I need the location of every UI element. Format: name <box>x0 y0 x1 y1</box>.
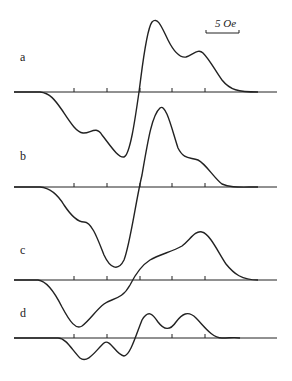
trace-d <box>14 314 240 360</box>
trace-label-a: a <box>20 50 25 65</box>
trace-a <box>14 20 258 157</box>
trace-label-b: b <box>20 149 26 164</box>
trace-label-d: d <box>20 306 26 321</box>
ticks-d <box>74 334 205 338</box>
scale-bar-label: 5 Oe <box>215 17 236 29</box>
trace-c <box>14 232 258 327</box>
trace-label-c: c <box>20 243 25 258</box>
ticks-c <box>74 276 205 280</box>
spectra-plot <box>0 0 292 381</box>
